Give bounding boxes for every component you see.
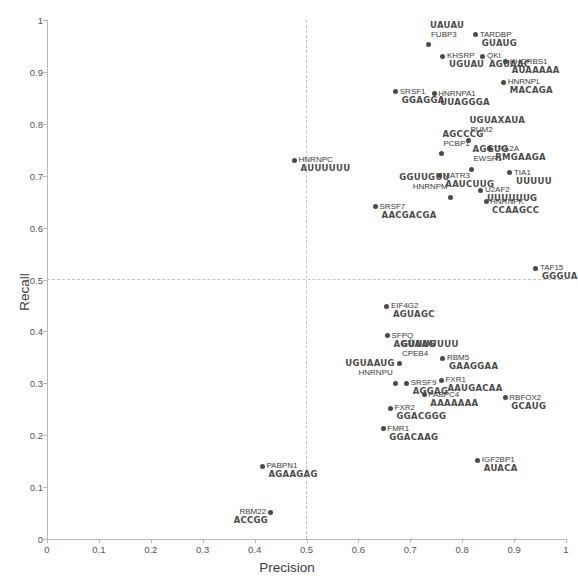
data-point-igf2bp1[interactable] xyxy=(475,458,480,463)
point-label: HNRNPM xyxy=(413,182,448,191)
data-point-hnrnpk[interactable] xyxy=(484,199,489,204)
y-tick-label: 0.6 xyxy=(30,222,43,233)
x-tick-label: 0.5 xyxy=(300,544,313,555)
y-tick-label: 0.9 xyxy=(30,66,43,77)
data-point-srsf7[interactable] xyxy=(373,204,378,209)
y-tick-label: 0.3 xyxy=(30,378,43,389)
y-tick-mark xyxy=(43,539,47,540)
x-tick-label: 0.8 xyxy=(456,544,469,555)
point-motif: GGUUGUU xyxy=(399,173,450,182)
data-point-eif4g2[interactable] xyxy=(384,304,389,309)
data-point-u2af2[interactable] xyxy=(478,188,483,193)
y-tick-mark xyxy=(43,435,47,436)
x-tick-mark xyxy=(203,539,204,543)
data-point-rbfox2[interactable] xyxy=(503,395,508,400)
point-label: PCBP1 xyxy=(443,139,469,148)
x-tick-mark xyxy=(47,539,48,543)
point-motif: ACCGG xyxy=(234,516,269,525)
x-tick-mark xyxy=(99,539,100,543)
point-motif: GGACAAG xyxy=(389,433,438,442)
data-point-srsf9[interactable] xyxy=(404,381,409,386)
x-tick-label: 0.2 xyxy=(144,544,157,555)
point-motif: UGUAAUG xyxy=(345,359,394,368)
point-motif: GUAUG xyxy=(482,39,517,48)
data-point-tardbp[interactable] xyxy=(473,32,478,37)
point-label: CPEB4 xyxy=(402,349,428,358)
x-tick-mark xyxy=(566,539,567,543)
data-point-fxr1[interactable] xyxy=(439,378,444,383)
y-tick-mark xyxy=(43,487,47,488)
y-tick-mark xyxy=(43,176,47,177)
point-label: HNRNPU xyxy=(359,368,393,377)
data-point-khsrp[interactable] xyxy=(440,54,445,59)
point-motif: AGAAGAG xyxy=(268,470,317,479)
x-tick-label: 0 xyxy=(44,544,49,555)
point-motif: CCAAGCC xyxy=(492,206,539,215)
data-point-srsf1[interactable] xyxy=(393,89,398,94)
point-motif: AUACA xyxy=(484,464,518,473)
point-motif: AACGACGA xyxy=(382,211,437,220)
x-tick-label: 0.3 xyxy=(196,544,209,555)
data-point-hnrnpc[interactable] xyxy=(292,158,297,163)
point-motif: UUAGGGA xyxy=(440,98,490,107)
point-motif: GCAUG xyxy=(511,402,546,411)
y-tick-label: 0.2 xyxy=(30,430,43,441)
point-motif: GGACGGG xyxy=(397,412,447,421)
data-point-hnrnpm[interactable] xyxy=(448,195,453,200)
y-tick-label: 0.8 xyxy=(30,118,43,129)
y-tick-label: 1 xyxy=(38,15,43,26)
point-motif: GGGUA xyxy=(542,272,578,281)
y-tick-mark xyxy=(43,331,47,332)
y-tick-label: 0.4 xyxy=(30,326,43,337)
y-tick-mark xyxy=(43,20,47,21)
data-point-cpeb4[interactable] xyxy=(397,361,402,366)
y-tick-mark xyxy=(43,383,47,384)
data-point-fxr2[interactable] xyxy=(388,406,393,411)
y-tick-label: 0.7 xyxy=(30,170,43,181)
x-tick-label: 0.7 xyxy=(404,544,417,555)
x-tick-mark xyxy=(358,539,359,543)
y-tick-mark xyxy=(43,280,47,281)
x-tick-label: 0.9 xyxy=(507,544,520,555)
reference-line-recall-0.5 xyxy=(47,279,566,280)
data-point-pabpn1[interactable] xyxy=(260,464,265,469)
y-tick-mark xyxy=(43,124,47,125)
data-point-sfpq[interactable] xyxy=(385,333,390,338)
data-point-pabpc4[interactable] xyxy=(422,392,427,397)
point-motif: AGCCCG xyxy=(442,130,483,139)
x-tick-label: 0.6 xyxy=(352,544,365,555)
point-motif: AGGUG xyxy=(473,145,509,154)
data-point-fubp3[interactable] xyxy=(426,42,431,47)
y-tick-label: 0 xyxy=(38,534,43,545)
point-label: FUBP3 xyxy=(431,30,457,39)
y-tick-mark xyxy=(43,228,47,229)
data-point-tia1[interactable] xyxy=(507,170,512,175)
data-point-rbm22[interactable] xyxy=(268,510,273,515)
data-point-rbm5[interactable] xyxy=(440,356,445,361)
data-point-taf15[interactable] xyxy=(533,266,538,271)
data-point-pcbp1[interactable] xyxy=(439,151,444,156)
y-axis-title: Recall xyxy=(17,273,32,311)
x-tick-label: 0.4 xyxy=(248,544,261,555)
point-motif: AUAAAAA xyxy=(512,66,560,75)
data-point-qki[interactable] xyxy=(480,54,485,59)
x-tick-mark xyxy=(255,539,256,543)
point-motif: AGUAGC xyxy=(393,310,435,319)
point-motif: UGUAU xyxy=(449,60,484,69)
x-axis-title: Precision xyxy=(259,560,315,575)
x-tick-mark xyxy=(410,539,411,543)
x-tick-mark xyxy=(307,539,308,543)
point-motif: MACAGA xyxy=(510,86,553,95)
data-point-hnrnpa1[interactable] xyxy=(432,91,437,96)
point-motif: UAUAU xyxy=(430,21,464,30)
data-point-hnrnpu[interactable] xyxy=(393,381,398,386)
x-tick-mark xyxy=(151,539,152,543)
point-motif: GAAGGAA xyxy=(449,362,498,371)
data-point-hnrnpl[interactable] xyxy=(501,80,506,85)
point-motif: AAAAAAA xyxy=(430,399,478,408)
x-tick-mark xyxy=(462,539,463,543)
data-point-fmr1[interactable] xyxy=(381,426,386,431)
point-motif: UGUAXAUA xyxy=(469,116,525,125)
y-tick-mark xyxy=(43,72,47,73)
